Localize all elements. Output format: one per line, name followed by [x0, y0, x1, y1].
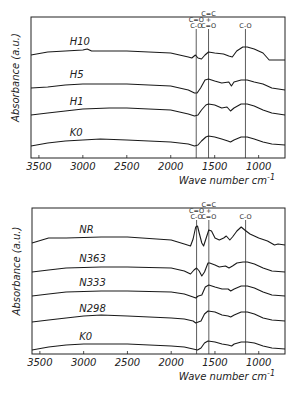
series-label: K0 — [79, 331, 92, 342]
x-tick-label: 1000 — [246, 357, 271, 368]
y-axis-label: Absorbance (a.u.) — [10, 33, 21, 123]
spectrum-trace-h10 — [31, 47, 285, 60]
peak-label: C=O — [201, 213, 216, 221]
spectrum-trace-nr — [32, 226, 285, 246]
x-tick-label: 2500 — [115, 357, 140, 368]
x-tick-label: 1500 — [202, 161, 227, 172]
spectrum-trace-n333 — [32, 285, 285, 298]
x-tick-label: 2000 — [158, 357, 183, 368]
x-tick-label: 3000 — [71, 357, 96, 368]
x-tick-label: 3500 — [26, 161, 51, 172]
series-label: N363 — [79, 253, 106, 264]
series-label: H5 — [70, 69, 84, 80]
x-tick-label: 2000 — [158, 161, 183, 172]
peak-label: C-O — [239, 22, 251, 30]
spectrum-trace-n363 — [32, 262, 285, 276]
y-axis-label: Absorbance (a.u.) — [11, 227, 22, 317]
series-label: N333 — [79, 277, 106, 288]
series-label: N298 — [79, 303, 106, 314]
x-tick-label: 3500 — [27, 357, 52, 368]
spectrum-trace-k0 — [32, 341, 285, 350]
bottom-panel-nitration: C=OC-OC=C+C=OC-O350030002500200015001000… — [11, 201, 285, 382]
ftir-figure: C=OC-OC=C+C=OC-O350030002500200015001000… — [0, 0, 299, 396]
peak-label: C-O — [240, 213, 252, 221]
x-tick-label: 2500 — [114, 161, 139, 172]
axes-frame — [32, 208, 285, 354]
top-panel-hydrolysis: C=OC-OC=C+C=OC-O350030002500200015001000… — [10, 10, 285, 186]
x-axis-label: Wave number cm-1 — [179, 173, 275, 186]
series-label: K0 — [70, 127, 83, 138]
peak-label: C=O — [201, 22, 216, 30]
x-tick-label: 1500 — [202, 357, 227, 368]
series-label: H1 — [70, 96, 84, 107]
x-tick-label: 1000 — [246, 161, 271, 172]
x-axis-label: Wave number cm-1 — [179, 369, 275, 382]
spectrum-trace-n298 — [32, 311, 285, 323]
spectrum-trace-h5 — [31, 79, 285, 93]
series-label: H10 — [70, 36, 90, 47]
series-label: NR — [79, 224, 93, 235]
x-tick-label: 3000 — [70, 161, 95, 172]
